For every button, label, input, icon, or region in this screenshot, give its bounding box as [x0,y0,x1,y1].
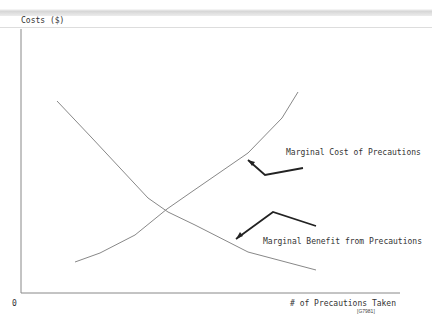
benefit-arrowhead-icon [236,232,243,239]
benefit-arrow-icon [236,212,316,239]
cost-annotation: Marginal Cost of Precautions [286,148,421,157]
benefit-annotation: Marginal Benefit from Precautions [263,237,422,246]
x-axis-label: # of Precautions Taken [290,299,396,308]
y-axis-label: Costs ($) [21,16,64,25]
cost-arrow-icon [248,160,303,175]
figure-id: [G7981] [357,308,375,314]
origin-label: 0 [12,299,17,308]
marginal-cost-benefit-chart: Costs ($) Marginal Cost of Precautions M… [0,0,432,332]
